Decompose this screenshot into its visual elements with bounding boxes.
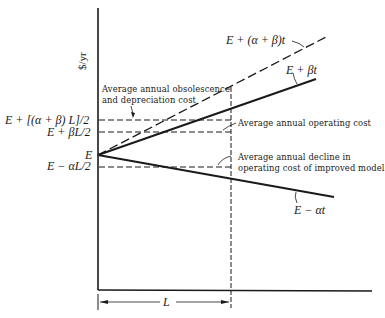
arrowhead-left bbox=[100, 300, 108, 304]
annotation-obsolescence: Average annual obsolescence and deprecia… bbox=[102, 84, 230, 105]
curve-label-beta: E + βt bbox=[286, 64, 317, 76]
x-axis bbox=[98, 290, 372, 291]
curve-label-alpha: E − αt bbox=[294, 204, 325, 216]
annotation-obsolescence-line1: Average annual obsolescence bbox=[102, 84, 230, 95]
annotation-decline: Average annual decline in operating cost… bbox=[238, 152, 385, 173]
arrowhead-right bbox=[221, 300, 229, 304]
tick-operating-avg: E + βL/2 bbox=[47, 126, 90, 138]
leader-decline bbox=[218, 156, 231, 165]
annotation-decline-line1: Average annual decline in bbox=[238, 152, 385, 163]
tick-decline-avg: E − αL/2 bbox=[47, 160, 91, 172]
curve-label-alpha-beta: E + (α + β)t bbox=[226, 34, 285, 46]
L-span-label: L bbox=[163, 296, 170, 308]
annotation-operating: Average annual operating cost bbox=[238, 118, 371, 129]
annotation-decline-line2: operating cost of improved model bbox=[238, 163, 385, 174]
leader-operating bbox=[223, 123, 236, 130]
y-axis-label: $/yr bbox=[77, 52, 88, 70]
leader-alpha-beta bbox=[292, 41, 304, 47]
annotation-obsolescence-line2: and depreciation cost bbox=[102, 95, 230, 106]
arrowhead-obsolescence bbox=[131, 112, 135, 118]
leader-alpha bbox=[295, 192, 297, 203]
